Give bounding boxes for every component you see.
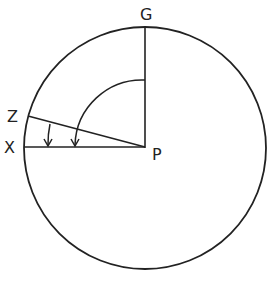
- label-g: G: [140, 5, 152, 24]
- diagram-canvas: G Z X P: [0, 0, 273, 285]
- label-z: Z: [7, 107, 18, 126]
- label-p: P: [152, 145, 162, 164]
- label-x: X: [4, 138, 15, 157]
- angle-arc-gpx: [75, 80, 145, 145]
